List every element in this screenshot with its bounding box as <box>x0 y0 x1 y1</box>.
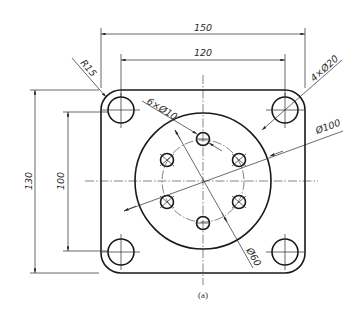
dim-4x20-label: 4×Ø20 <box>308 53 340 84</box>
figure-caption: (a) <box>198 290 208 300</box>
dim-120-label: 120 <box>194 47 212 58</box>
flange-drawing: 150 120 130 100 R15 4×Ø20 6×Ø10 <box>0 0 363 319</box>
dim-4x20: 4×Ø20 <box>262 53 342 130</box>
dim-150-label: 150 <box>194 22 212 33</box>
dim-100-label: 100 <box>55 172 66 190</box>
dim-6x10-label: 6×Ø10 <box>145 95 179 122</box>
dim-130-label: 130 <box>23 172 34 190</box>
dim-r15-label: R15 <box>78 57 98 78</box>
dim-100: 100 <box>55 112 108 251</box>
